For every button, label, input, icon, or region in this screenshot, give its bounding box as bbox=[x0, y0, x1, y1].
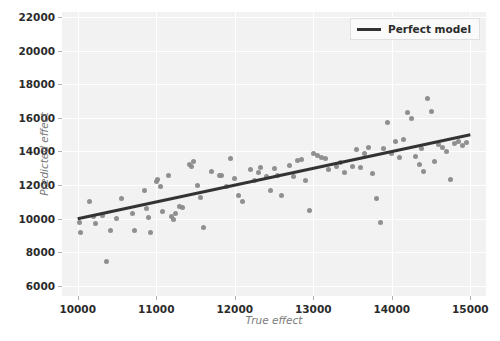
scatter-point bbox=[405, 110, 410, 115]
perfect-model-line-swatch bbox=[357, 28, 381, 31]
scatter-point bbox=[303, 178, 308, 183]
scatter-point bbox=[130, 211, 135, 216]
scatter-point bbox=[362, 151, 367, 156]
x-tick-mark bbox=[78, 296, 79, 300]
chart-legend: Perfect model bbox=[350, 18, 480, 40]
scatter-point bbox=[425, 96, 430, 101]
x-tick-mark bbox=[392, 296, 393, 300]
scatter-point bbox=[87, 199, 92, 204]
scatter-point bbox=[409, 116, 414, 121]
y-tick-label: 22000 bbox=[18, 11, 55, 23]
gridline-horizontal bbox=[62, 118, 486, 119]
scatter-point bbox=[326, 167, 331, 172]
scatter-point bbox=[389, 151, 394, 156]
scatter-point bbox=[142, 188, 147, 193]
scatter-point bbox=[268, 188, 273, 193]
y-tick-mark bbox=[58, 286, 62, 287]
gridline-horizontal bbox=[62, 185, 486, 186]
x-tick-label: 14000 bbox=[374, 303, 411, 315]
scatter-point bbox=[166, 173, 171, 178]
scatter-point bbox=[201, 225, 206, 230]
scatter-point bbox=[171, 217, 176, 222]
scatter-point bbox=[248, 167, 253, 172]
scatter-point bbox=[232, 176, 237, 181]
gridline-vertical bbox=[156, 12, 157, 296]
scatter-point bbox=[291, 174, 296, 179]
gridline-horizontal bbox=[62, 286, 486, 287]
scatter-point bbox=[198, 195, 203, 200]
scatter-point bbox=[91, 214, 96, 219]
y-tick-mark bbox=[58, 17, 62, 18]
x-tick-mark bbox=[156, 296, 157, 300]
y-tick-mark bbox=[58, 151, 62, 152]
x-axis-label: True effect bbox=[246, 314, 303, 326]
gridline-vertical bbox=[470, 12, 471, 296]
y-tick-mark bbox=[58, 252, 62, 253]
scatter-point bbox=[385, 120, 390, 125]
scatter-point bbox=[279, 193, 284, 198]
scatter-point bbox=[299, 157, 304, 162]
scatter-point bbox=[417, 162, 422, 167]
scatter-point bbox=[358, 165, 363, 170]
scatter-point bbox=[444, 149, 449, 154]
scatter-point bbox=[307, 208, 312, 213]
scatter-point bbox=[264, 174, 269, 179]
scatter-point bbox=[429, 109, 434, 114]
scatter-point bbox=[413, 154, 418, 159]
scatter-point bbox=[378, 220, 383, 225]
x-tick-mark bbox=[313, 296, 314, 300]
scatter-point bbox=[228, 156, 233, 161]
scatter-point bbox=[144, 206, 149, 211]
scatter-point bbox=[191, 159, 196, 164]
scatter-point bbox=[252, 178, 257, 183]
y-tick-mark bbox=[58, 51, 62, 52]
scatter-point bbox=[224, 184, 229, 189]
gridline-horizontal bbox=[62, 84, 486, 85]
x-tick-label: 10000 bbox=[59, 303, 96, 315]
scatter-point bbox=[401, 137, 406, 142]
perfect-model-line bbox=[62, 12, 486, 296]
y-tick-label: 6000 bbox=[26, 280, 55, 292]
scatter-point bbox=[256, 170, 261, 175]
scatter-point bbox=[189, 164, 194, 169]
scatter-point bbox=[240, 199, 245, 204]
x-tick-mark bbox=[470, 296, 471, 300]
scatter-point bbox=[448, 177, 453, 182]
scatter-point bbox=[374, 196, 379, 201]
y-tick-label: 20000 bbox=[18, 45, 55, 57]
scatter-point bbox=[132, 228, 137, 233]
scatter-point bbox=[148, 230, 153, 235]
y-tick-label: 10000 bbox=[18, 213, 55, 225]
gridline-vertical bbox=[235, 12, 236, 296]
y-tick-label: 8000 bbox=[26, 246, 55, 258]
y-tick-mark bbox=[58, 118, 62, 119]
scatter-point bbox=[158, 184, 163, 189]
scatter-point bbox=[180, 205, 185, 210]
scatter-point bbox=[209, 169, 214, 174]
x-tick-mark bbox=[235, 296, 236, 300]
scatter-point bbox=[100, 213, 105, 218]
scatter-point bbox=[370, 171, 375, 176]
scatter-point bbox=[275, 173, 280, 178]
scatter-point bbox=[195, 183, 200, 188]
scatter-point bbox=[338, 160, 343, 165]
legend-item-label: Perfect model bbox=[388, 23, 471, 35]
x-tick-label: 11000 bbox=[138, 303, 175, 315]
scatter-point bbox=[93, 221, 98, 226]
scatter-point bbox=[432, 159, 437, 164]
scatter-point bbox=[236, 193, 241, 198]
scatter-point bbox=[155, 177, 160, 182]
scatter-point bbox=[219, 173, 224, 178]
y-tick-mark bbox=[58, 84, 62, 85]
scatter-point bbox=[350, 164, 355, 169]
scatter-point bbox=[108, 228, 113, 233]
scatter-point bbox=[397, 155, 402, 160]
y-axis-label: Predicted effect bbox=[38, 112, 50, 195]
scatter-point bbox=[258, 165, 263, 170]
scatter-point bbox=[421, 169, 426, 174]
x-tick-label: 15000 bbox=[452, 303, 489, 315]
scatter-point bbox=[342, 170, 347, 175]
scatter-point bbox=[78, 230, 83, 235]
y-tick-mark bbox=[58, 219, 62, 220]
scatter-point bbox=[114, 216, 119, 221]
